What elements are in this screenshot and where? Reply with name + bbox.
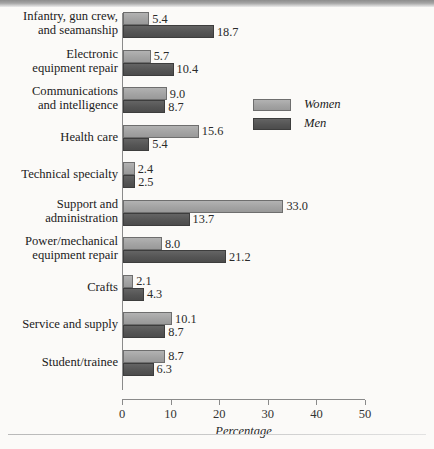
bar-group: 33.013.7 [123,200,283,226]
bar-value-label: 5.7 [154,49,169,64]
legend-swatch-women-icon [253,99,291,111]
bar-value-label: 5.4 [152,11,167,26]
bar-women: 5.4 [123,12,149,25]
bar-group: 5.710.4 [123,50,174,76]
category-label-line: equipment repair [8,248,118,262]
bar-value-label: 8.7 [168,324,183,339]
footer-divider [8,434,426,435]
legend-item-men: Men [253,115,341,132]
x-axis-line [122,399,365,400]
bar-value-label: 8.0 [165,236,180,251]
category-label: Service and supply [8,317,118,331]
bar-value-label: 2.5 [138,174,153,189]
category-label: Support andadministration [8,197,118,226]
category-label-line: Power/mechanical [8,234,118,248]
bar-value-label: 13.7 [193,212,215,227]
x-tick-label: 0 [102,407,142,422]
x-tick-label: 20 [199,407,239,422]
category-label: Infantry, gun crew,and seamanship [8,9,118,38]
chart-row: Service and supply10.18.7 [0,310,434,348]
legend-swatch-men-icon [253,118,291,130]
x-tick-label: 10 [151,407,191,422]
bar-value-label: 18.7 [217,24,239,39]
chart-row: Infantry, gun crew,and seamanship5.418.7 [0,10,434,48]
chart-row: Health care15.65.4 [0,123,434,161]
bar-women: 2.1 [123,275,133,288]
bar-men: 18.7 [123,25,214,38]
category-label-line: Student/trainee [8,355,118,369]
bar-men: 10.4 [123,63,174,76]
bar-women: 8.0 [123,237,162,250]
x-tick [365,400,366,405]
category-label-line: Communications [8,84,118,98]
bar-value-label: 15.6 [202,124,224,139]
category-label-line: and intelligence [8,98,118,112]
bar-women: 10.1 [123,312,172,325]
bar-men: 5.4 [123,138,149,151]
footer-ghost-text [10,439,430,448]
category-label: Communicationsand intelligence [8,84,118,113]
category-label-line: Health care [8,130,118,144]
scan-artifact-band [0,0,434,7]
bar-group: 2.14.3 [123,275,144,301]
category-label-line: Support and [8,197,118,211]
chart-row: Communicationsand intelligence9.08.7 [0,85,434,123]
bar-women: 2.4 [123,162,135,175]
x-tick-label: 30 [248,407,288,422]
bar-women: 9.0 [123,87,167,100]
bar-value-label: 6.3 [157,362,172,377]
x-tick [171,400,172,405]
bar-group: 2.42.5 [123,162,135,188]
chart-row: Power/mechanicalequipment repair8.021.2 [0,235,434,273]
category-label-line: and seamanship [8,23,118,37]
bar-group: 8.76.3 [123,350,165,376]
category-label-line: Electronic [8,47,118,61]
category-label-line: Technical specialty [8,167,118,181]
figure-canvas: 01020304050 Percentage Infantry, gun cre… [0,0,434,449]
bar-men: 13.7 [123,213,190,226]
category-label: Student/trainee [8,355,118,369]
category-label-line: administration [8,211,118,225]
category-label: Health care [8,130,118,144]
x-tick [219,400,220,405]
chart-legend: Women Men [253,96,341,134]
x-axis-title: Percentage [122,424,365,439]
category-label-line: equipment repair [8,61,118,75]
x-tick-label: 50 [345,407,385,422]
bar-group: 15.65.4 [123,125,199,151]
bar-group: 9.08.7 [123,87,167,113]
bar-men: 8.7 [123,100,165,113]
bar-men: 6.3 [123,363,154,376]
bar-value-label: 8.7 [168,99,183,114]
x-tick [122,400,123,405]
bar-men: 8.7 [123,325,165,338]
chart-row: Crafts2.14.3 [0,273,434,311]
bar-rows: Infantry, gun crew,and seamanship5.418.7… [0,10,434,385]
chart-row: Student/trainee8.76.3 [0,348,434,386]
bar-men: 21.2 [123,250,226,263]
x-tick [268,400,269,405]
category-label: Technical specialty [8,167,118,181]
category-label-line: Service and supply [8,317,118,331]
bar-value-label: 10.4 [177,62,199,77]
legend-item-women: Women [253,96,341,113]
bar-value-label: 33.0 [286,199,308,214]
category-label: Crafts [8,280,118,294]
bar-value-label: 21.2 [229,249,251,264]
category-label: Electronicequipment repair [8,47,118,76]
chart-row: Technical specialty2.42.5 [0,160,434,198]
bar-value-label: 5.4 [152,137,167,152]
bar-value-label: 4.3 [147,287,162,302]
category-label-line: Crafts [8,280,118,294]
bar-group: 8.021.2 [123,237,226,263]
chart-row: Support andadministration33.013.7 [0,198,434,236]
bar-men: 2.5 [123,175,135,188]
bar-women: 5.7 [123,50,151,63]
chart-row: Electronicequipment repair5.710.4 [0,48,434,86]
legend-label-men: Men [304,116,326,131]
category-label-line: Infantry, gun crew, [8,9,118,23]
bar-group: 10.18.7 [123,312,172,338]
bar-men: 4.3 [123,288,144,301]
legend-label-women: Women [304,97,341,112]
x-tick [316,400,317,405]
